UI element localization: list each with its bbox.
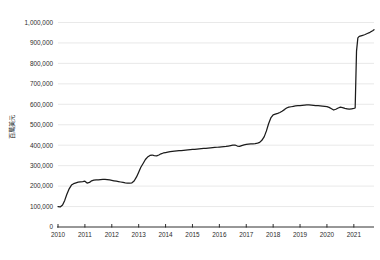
y-axis-tick-label: 200,000 xyxy=(30,182,54,189)
y-axis-tick-label: 600,000 xyxy=(30,101,54,108)
y-axis-zero-label: 0 xyxy=(49,223,53,230)
line-chart: 100,000200,000300,000400,000500,000600,0… xyxy=(0,0,380,260)
x-axis-tick-label: 2017 xyxy=(239,231,254,238)
y-axis-tick-label: 1,000,000 xyxy=(25,19,54,26)
x-axis-tick-label: 2012 xyxy=(105,231,120,238)
y-axis-tick-label: 800,000 xyxy=(30,60,54,67)
x-axis-tick-label: 2021 xyxy=(347,231,362,238)
x-axis-tick-label: 2020 xyxy=(320,231,335,238)
chart-canvas: 100,000200,000300,000400,000500,000600,0… xyxy=(0,0,380,260)
y-axis-tick-label: 400,000 xyxy=(30,142,54,149)
x-axis-tick-label: 2016 xyxy=(212,231,227,238)
y-axis-tick-label: 100,000 xyxy=(30,203,54,210)
chart-background xyxy=(0,0,380,260)
x-axis-tick-label: 2010 xyxy=(51,231,66,238)
x-axis-tick-label: 2014 xyxy=(158,231,173,238)
x-axis-tick-label: 2018 xyxy=(266,231,281,238)
y-axis-tick-label: 900,000 xyxy=(30,39,54,46)
x-axis-tick-label: 2015 xyxy=(185,231,200,238)
x-axis-tick-label: 2013 xyxy=(132,231,147,238)
x-axis-tick-label: 2019 xyxy=(293,231,308,238)
y-axis-tick-label: 700,000 xyxy=(30,80,54,87)
y-axis-title-text: 百萬美元 xyxy=(8,115,16,139)
y-axis-tick-label: 300,000 xyxy=(30,162,54,169)
y-axis-title: 百萬美元 xyxy=(8,115,16,139)
y-axis-tick-label: 500,000 xyxy=(30,121,54,128)
x-axis-tick-label: 2011 xyxy=(78,231,92,238)
